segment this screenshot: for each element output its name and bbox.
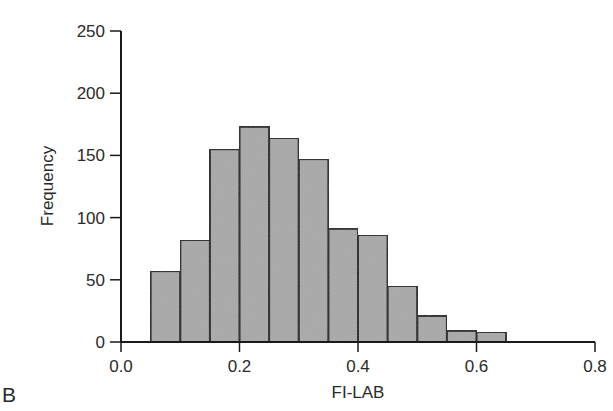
x-tick-label: 0.8 (583, 357, 607, 376)
y-tick-label: 200 (77, 84, 105, 103)
x-tick-label: 0.0 (109, 357, 133, 376)
histogram-bar: 0.40-0.45: 86 (358, 235, 388, 342)
histogram-bar: 0.10-0.15: 82 (180, 240, 210, 342)
histogram-chart: 0.05-0.10: 570.10-0.15: 820.15-0.20: 155… (0, 0, 613, 411)
histogram-bars: 0.05-0.10: 570.10-0.15: 820.15-0.20: 155… (151, 127, 507, 342)
y-tick-label: 0 (96, 333, 105, 352)
histogram-bar: 0.60-0.65: 8 (477, 332, 507, 342)
x-tick-label: 0.2 (228, 357, 252, 376)
x-axis-title: FI-LAB (332, 383, 385, 402)
histogram-bar: 0.35-0.40: 91 (328, 229, 358, 342)
histogram-bar: 0.55-0.60: 9 (447, 331, 477, 342)
x-tick-label: 0.6 (465, 357, 489, 376)
y-tick-label: 100 (77, 209, 105, 228)
histogram-bar: 0.05-0.10: 57 (151, 271, 181, 342)
x-tick-label: 0.4 (346, 357, 370, 376)
histogram-bar: 0.50-0.55: 21 (417, 316, 447, 342)
y-tick-label: 50 (86, 271, 105, 290)
histogram-bar: 0.15-0.20: 155 (210, 149, 240, 342)
histogram-bar: 0.30-0.35: 147 (299, 159, 329, 342)
y-tick-label: 150 (77, 146, 105, 165)
histogram-bar: 0.20-0.25: 173 (240, 127, 270, 342)
y-axis-title: Frequency (38, 145, 57, 226)
panel-label: B (2, 383, 16, 406)
histogram-bar: 0.25-0.30: 164 (269, 138, 299, 342)
y-tick-label: 250 (77, 22, 105, 41)
histogram-bar: 0.45-0.50: 45 (388, 286, 418, 342)
